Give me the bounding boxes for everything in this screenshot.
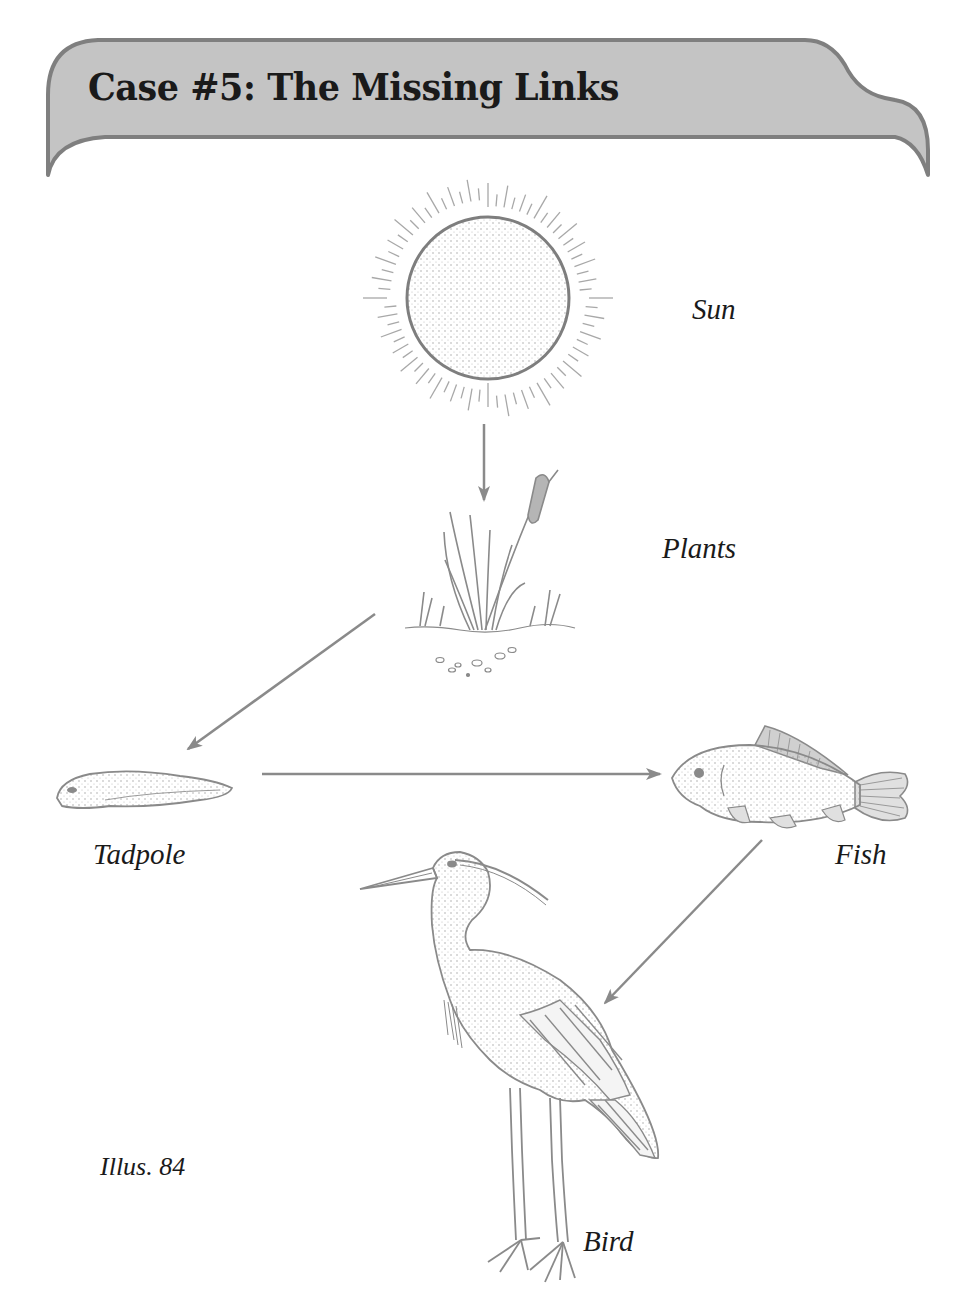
cattail-plant-icon — [405, 470, 575, 677]
illustration-caption: Illus. 84 — [100, 1152, 185, 1182]
food-chain-diagram — [0, 0, 961, 1308]
label-bird: Bird — [583, 1225, 633, 1258]
label-fish: Fish — [835, 838, 887, 871]
sun-icon — [323, 133, 654, 462]
arrow-plants-to-tadpole — [188, 614, 375, 749]
label-plants: Plants — [662, 532, 736, 565]
label-tadpole: Tadpole — [93, 838, 185, 871]
heron-icon — [360, 852, 658, 1282]
fish-icon — [672, 726, 908, 828]
tadpole-icon — [57, 771, 232, 808]
arrow-fish-to-bird — [605, 840, 762, 1003]
label-sun: Sun — [692, 293, 736, 326]
